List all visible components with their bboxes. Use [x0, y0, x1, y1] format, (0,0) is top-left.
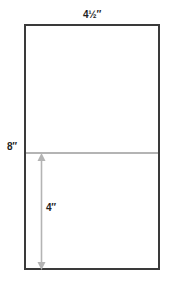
top-width-label: 4½″: [24, 9, 160, 20]
inner-height-label: 4″: [46, 202, 56, 213]
dimension-diagram: 4½″ 8″ 4″: [0, 0, 169, 286]
left-height-label: 8″: [7, 141, 17, 152]
